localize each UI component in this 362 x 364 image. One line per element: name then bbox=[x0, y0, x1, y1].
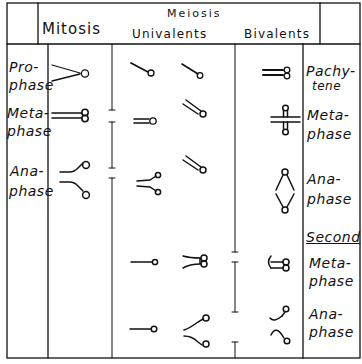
univalent-second-anaphase-icon bbox=[130, 326, 157, 332]
univalents-bivalents-separator bbox=[232, 44, 238, 358]
univalent-second-metaphase-icon bbox=[131, 259, 158, 264]
header-meiosis: Meiosis bbox=[167, 8, 222, 19]
bivalent-pachytene-icon bbox=[263, 67, 290, 79]
mitosis-univalents-separator bbox=[109, 44, 115, 358]
bivalent-metaphase-icon bbox=[271, 105, 300, 135]
univalent-anaphase-icon bbox=[137, 172, 161, 194]
header-mitosis: Mitosis bbox=[42, 22, 101, 37]
univalent-metaphase-icon bbox=[134, 118, 156, 124]
bivalent-anaphase-icon bbox=[276, 169, 294, 213]
mitosis-anaphase-chromosome-icon bbox=[60, 162, 89, 199]
univalent-prophase-icon bbox=[131, 63, 154, 76]
mitosis-metaphase-chromosome-icon bbox=[52, 109, 88, 121]
univalent-pair-second-anaphase-icon bbox=[184, 315, 209, 347]
univalent-pair-anaphase-icon bbox=[183, 156, 206, 173]
right-label-second: Second bbox=[306, 230, 361, 244]
header-univalents: Univalents bbox=[132, 28, 207, 40]
univalent-pair-second-metaphase-icon bbox=[183, 255, 207, 268]
header-bivalents: Bivalents bbox=[244, 28, 310, 40]
univalent-pair-metaphase-icon bbox=[183, 100, 206, 117]
bivalent-second-metaphase-icon bbox=[269, 256, 290, 271]
mitosis-prophase-chromosome-icon bbox=[52, 65, 89, 81]
bivalent-second-anaphase-icon bbox=[270, 306, 290, 344]
univalent-pair-prophase-icon bbox=[182, 64, 203, 78]
